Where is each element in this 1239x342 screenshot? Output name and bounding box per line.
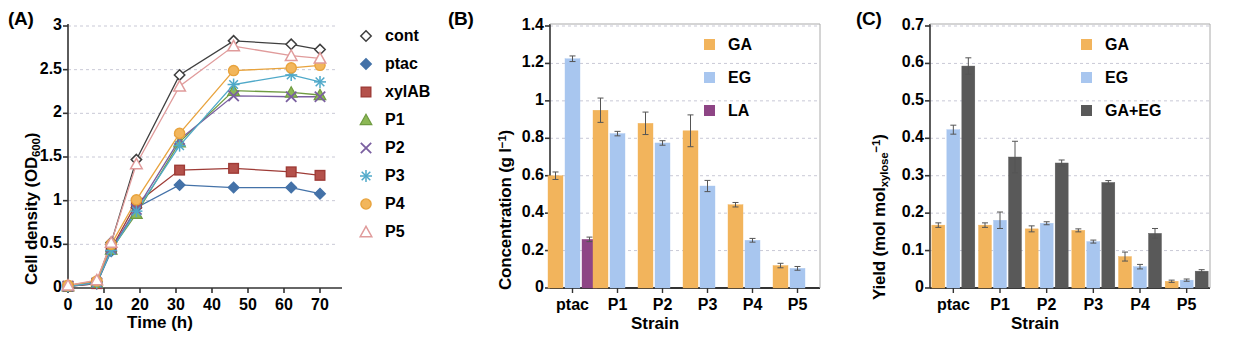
xtick-label: P3: [684, 296, 732, 314]
legend-item-eg: EG: [1075, 61, 1161, 94]
xtick-label: P5: [1163, 296, 1211, 314]
panel-a-xtick: 0: [52, 296, 84, 314]
legend-item-p2: P2: [355, 134, 430, 162]
ytick-label: 1: [492, 91, 544, 109]
xtick-label: P1: [976, 296, 1024, 314]
legend-item-ptac: ptac: [355, 50, 430, 78]
legend-label: EG: [728, 69, 751, 87]
legend-marker-filled-circle-icon: [355, 193, 377, 215]
panel-a-xtick: 40: [196, 296, 228, 314]
legend-marker-filled-diamond-icon: [355, 53, 377, 75]
panel-b: (B) Concentration (g l−1) Strain GAEGLA …: [440, 0, 850, 342]
legend-label: xylAB: [385, 83, 430, 101]
legend-swatch-icon: [1075, 100, 1097, 122]
legend-item-p3: P3: [355, 162, 430, 190]
panel-a-ytick: 0.5: [18, 234, 62, 252]
ytick-label: 0.3: [872, 166, 924, 184]
xtick-label: P4: [729, 296, 777, 314]
ytick-label: 0: [492, 278, 544, 296]
panel-a-xtick: 60: [268, 296, 300, 314]
ytick-label: 0.6: [492, 166, 544, 184]
ytick-label: 0.2: [872, 203, 924, 221]
legend-item-cont: cont: [355, 22, 430, 50]
ytick-label: 0.1: [872, 241, 924, 259]
ytick-label: 0: [872, 278, 924, 296]
legend-item-la: LA: [698, 94, 752, 127]
legend-marker-open-triangle-icon: [355, 221, 377, 243]
legend-label: cont: [385, 27, 419, 45]
panel-a-ytick: 3: [18, 16, 62, 34]
legend-label: P1: [385, 111, 405, 129]
legend-swatch-icon: [698, 67, 720, 89]
legend-swatch-icon: [698, 34, 720, 56]
xtick-label: P3: [1069, 296, 1117, 314]
legend-item-p4: P4: [355, 190, 430, 218]
xtick-label: ptac: [549, 296, 597, 314]
legend-label: P2: [385, 139, 405, 157]
panel-a-xtick: 50: [232, 296, 264, 314]
legend-swatch-icon: [698, 100, 720, 122]
legend-label: P5: [385, 223, 405, 241]
legend-marker-filled-square-icon: [355, 81, 377, 103]
ytick-label: 0.8: [492, 128, 544, 146]
legend-marker-open-diamond-icon: [355, 25, 377, 47]
ytick-label: 0.2: [492, 241, 544, 259]
xtick-label: P2: [1023, 296, 1071, 314]
legend-label: GA: [728, 36, 752, 54]
legend-item-ga: GA: [698, 28, 752, 61]
legend-label: GA: [1105, 36, 1129, 54]
legend-marker-filled-triangle-icon: [355, 109, 377, 131]
legend-label: EG: [1105, 69, 1128, 87]
panel-a-xtick: 10: [88, 296, 120, 314]
xtick-label: P2: [639, 296, 687, 314]
legend-label: P3: [385, 167, 405, 185]
panel-a-ytick: 1: [18, 191, 62, 209]
xtick-label: P1: [594, 296, 642, 314]
ytick-label: 0.6: [872, 53, 924, 71]
panel-a-xtick: 20: [124, 296, 156, 314]
legend-marker-cross-x-icon: [355, 137, 377, 159]
xtick-label: ptac: [929, 296, 977, 314]
ytick-label: 1.2: [492, 53, 544, 71]
panel-a-xtick: 30: [160, 296, 192, 314]
ytick-label: 0.7: [872, 16, 924, 34]
ytick-label: 0.4: [492, 203, 544, 221]
legend-label: P4: [385, 195, 405, 213]
legend-label: GA+EG: [1105, 102, 1161, 120]
legend-item-ga-plus-eg: GA+EG: [1075, 94, 1161, 127]
legend-swatch-icon: [1075, 34, 1097, 56]
panel-c: (C) Yield (mol molxylose−1) Strain GAEGG…: [850, 0, 1239, 342]
legend-item-eg: EG: [698, 61, 752, 94]
xtick-label: P5: [774, 296, 822, 314]
legend-swatch-icon: [1075, 67, 1097, 89]
panel-a-legend: contptacxylABP1P2P3P4P5: [355, 22, 430, 246]
panel-a-ytick: 2: [18, 103, 62, 121]
panel-a-ytick: 0: [18, 278, 62, 296]
panel-a-xtick: 70: [304, 296, 336, 314]
legend-item-ga: GA: [1075, 28, 1161, 61]
ytick-label: 0.4: [872, 128, 924, 146]
panel-a-ytick: 1.5: [18, 147, 62, 165]
legend-label: ptac: [385, 55, 418, 73]
panel-c-legend: GAEGGA+EG: [1075, 28, 1161, 127]
xtick-label: P4: [1116, 296, 1164, 314]
legend-marker-asterisk-icon: [355, 165, 377, 187]
legend-item-p1: P1: [355, 106, 430, 134]
panel-a: (A) Cell density (OD600) Time (h) contpt…: [0, 0, 440, 342]
figure-three-panel: (A) Cell density (OD600) Time (h) contpt…: [0, 0, 1239, 342]
panel-a-ytick: 2.5: [18, 60, 62, 78]
panel-b-legend: GAEGLA: [698, 28, 752, 127]
legend-label: LA: [728, 102, 749, 120]
legend-item-p5: P5: [355, 218, 430, 246]
ytick-label: 0.5: [872, 91, 924, 109]
legend-item-xylab: xylAB: [355, 78, 430, 106]
ytick-label: 1.4: [492, 16, 544, 34]
